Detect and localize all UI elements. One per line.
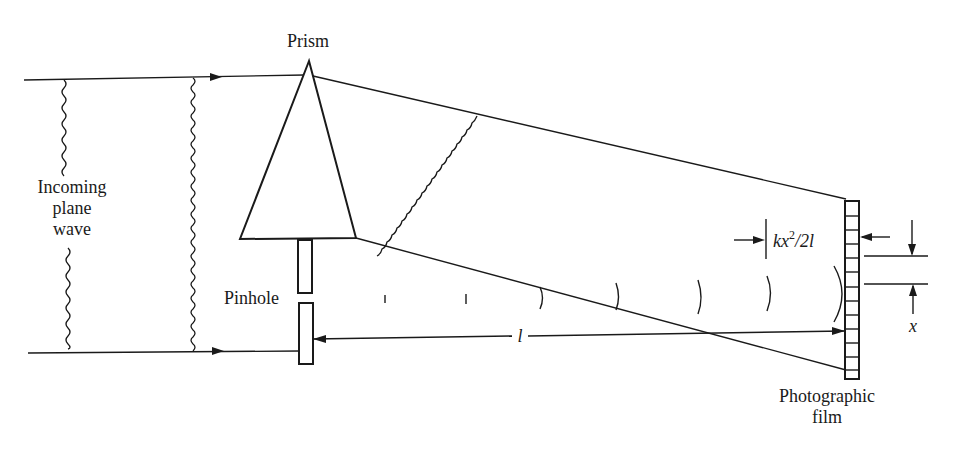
pinhole-screen — [298, 240, 313, 364]
spherical-wavefronts — [385, 266, 842, 322]
distance-l-arrow: l — [313, 326, 845, 346]
svg-text:Incoming: Incoming — [38, 177, 107, 197]
prism-label: Prism — [287, 31, 329, 51]
incoming-wave-label: Incoming plane wave — [38, 177, 107, 239]
svg-text:film: film — [812, 407, 842, 427]
diagram-canvas: Incoming plane wave Prism Pinhole l — [0, 0, 956, 452]
sag-annotation: kx2/2l — [734, 219, 890, 259]
svg-text:wave: wave — [53, 219, 91, 239]
svg-text:Photographic: Photographic — [779, 386, 875, 406]
svg-text:kx2/2l: kx2/2l — [773, 228, 814, 251]
photographic-film — [845, 201, 859, 379]
deflected-wavefront — [377, 116, 477, 256]
svg-text:l: l — [517, 326, 522, 346]
svg-text:x: x — [908, 316, 917, 336]
svg-text:plane: plane — [53, 198, 92, 218]
pinhole-label: Pinhole — [224, 288, 279, 308]
film-label: Photographic film — [779, 386, 875, 427]
prism — [240, 61, 356, 239]
